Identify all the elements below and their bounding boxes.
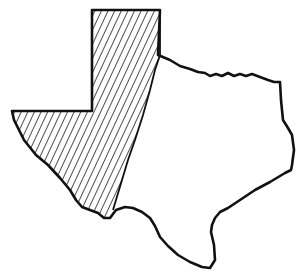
texas-map [0, 0, 306, 277]
